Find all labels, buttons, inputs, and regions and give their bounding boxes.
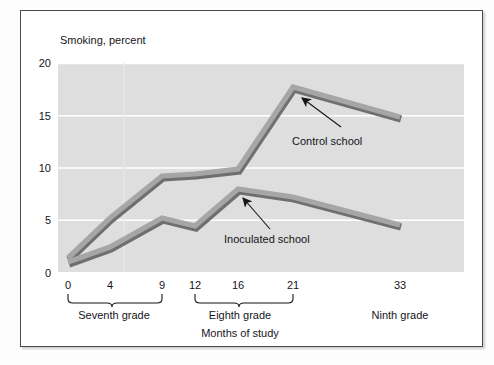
y-tick-label-0: 0 — [45, 267, 51, 279]
annotation-inoculated-school-label: Inoculated school — [224, 233, 310, 245]
y-axis-title: Smoking, percent — [60, 34, 146, 46]
x-tick-label-16: 16 — [232, 279, 244, 291]
figure-root: 20 15 10 5 0 Smoking, percent — [0, 0, 494, 365]
grade-brackets — [68, 294, 293, 307]
x-tick-label-4: 4 — [107, 279, 113, 291]
bracket-seventh-grade — [68, 294, 162, 307]
figure-frame: 20 15 10 5 0 Smoking, percent — [20, 10, 483, 347]
x-tick-label-9: 9 — [159, 279, 165, 291]
grade-label-ninth: Ninth grade — [372, 309, 429, 321]
grade-label-seventh: Seventh grade — [78, 309, 150, 321]
x-tick-label-21: 21 — [287, 279, 299, 291]
grade-labels: Seventh grade Eighth grade Ninth grade — [78, 309, 428, 321]
x-tick-label-12: 12 — [189, 279, 201, 291]
x-axis-title: Months of study — [201, 327, 279, 339]
y-axis-tick-labels: 20 15 10 5 0 — [39, 57, 51, 279]
x-tick-label-33: 33 — [394, 279, 406, 291]
annotation-control-school-label: Control school — [292, 135, 362, 147]
y-tick-label-15: 15 — [39, 110, 51, 122]
grade-label-eighth: Eighth grade — [209, 309, 271, 321]
x-tick-label-0: 0 — [65, 279, 71, 291]
bracket-eighth-grade — [195, 294, 293, 307]
x-axis-tick-labels: 0 4 9 12 16 21 33 — [65, 279, 406, 291]
y-tick-label-20: 20 — [39, 57, 51, 69]
smoking-percent-line-chart: 20 15 10 5 0 Smoking, percent — [21, 11, 482, 346]
y-tick-label-10: 10 — [39, 162, 51, 174]
y-tick-label-5: 5 — [45, 214, 51, 226]
